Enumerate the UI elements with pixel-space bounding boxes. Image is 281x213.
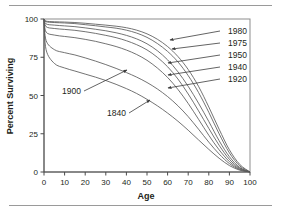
x-tick-label: 100 (243, 178, 257, 187)
x-tick-labels: 0102030405060708090100 (42, 178, 257, 187)
y-tick-label: 50 (29, 92, 38, 101)
leader-line-1975 (172, 43, 220, 49)
series-label-1950: 1950 (228, 50, 247, 60)
y-axis-title: Percent Surviving (5, 58, 15, 135)
x-tick-label: 30 (101, 178, 110, 187)
y-tick-label: 75 (29, 53, 38, 62)
x-tick-label: 60 (163, 178, 172, 187)
x-tick-label: 10 (60, 178, 69, 187)
x-tick-label: 50 (143, 178, 152, 187)
x-tick-label: 90 (225, 178, 234, 187)
leader-line-1840 (129, 100, 150, 113)
x-tick-label: 0 (42, 178, 47, 187)
y-tick-label: 100 (25, 15, 39, 24)
x-tick-label: 20 (81, 178, 90, 187)
series-label-1840: 1840 (107, 108, 126, 118)
leader-line-1980 (170, 31, 220, 40)
y-tick-labels: 0255075100 (25, 15, 39, 177)
series-label-1940: 1940 (228, 62, 247, 72)
survival-curve-chart: 0255075100 0102030405060708090100 198019… (0, 0, 281, 213)
x-tick-label: 80 (204, 178, 213, 187)
leader-line-1920 (168, 79, 220, 88)
figure-container: 0255075100 0102030405060708090100 198019… (0, 0, 281, 213)
series-label-1980: 1980 (228, 26, 247, 36)
x-axis-title: Age (137, 191, 154, 201)
series-label-1900: 1900 (62, 86, 81, 96)
x-tick-label: 40 (122, 178, 131, 187)
series-label-1920: 1920 (228, 74, 247, 84)
x-tick-label: 70 (184, 178, 193, 187)
y-tick-label: 25 (29, 130, 38, 139)
y-tick-label: 0 (34, 168, 39, 177)
series-label-1975: 1975 (228, 38, 247, 48)
leader-line-1900 (84, 70, 127, 91)
leader-line-1940 (168, 67, 220, 75)
